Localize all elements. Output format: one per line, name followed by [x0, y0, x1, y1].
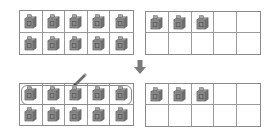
ten-frame-cell [169, 33, 192, 54]
ten-frame-cell [214, 33, 237, 54]
ten-frame-cell [20, 11, 43, 33]
ten-frame-cell [43, 84, 66, 105]
ten-frame-cell [214, 105, 237, 126]
ten-frame-cell [214, 12, 237, 33]
cube-icon [114, 86, 129, 101]
cube-icon [46, 107, 61, 122]
ten-frame-cell [43, 11, 66, 33]
ten-frame-cell [146, 84, 169, 105]
cube-icon [23, 107, 38, 122]
cube-icon [46, 86, 61, 101]
ten-frame-cell [20, 84, 43, 105]
ten-frame-before-left [19, 10, 134, 55]
cube-icon [23, 36, 38, 51]
ten-frame-cell [65, 11, 88, 33]
ten-frame-cell [237, 33, 260, 54]
cube-icon [23, 86, 38, 101]
cube-icon [23, 14, 38, 29]
cube-icon [91, 14, 106, 29]
ten-frame-cell [237, 12, 260, 33]
cube-icon [68, 36, 83, 51]
ten-frame-cell [88, 11, 111, 33]
cube-icon [68, 107, 83, 122]
cube-icon [46, 14, 61, 29]
ten-frame-cell [110, 33, 133, 55]
cube-icon [68, 14, 83, 29]
ten-frame-cell [192, 105, 215, 126]
ten-frame-cell [20, 105, 43, 126]
cube-icon [46, 36, 61, 51]
ten-frame-cell [110, 105, 133, 126]
cube-icon [114, 14, 129, 29]
cube-icon [114, 107, 129, 122]
cube-icon [91, 36, 106, 51]
cube-icon [195, 15, 210, 30]
ten-frame-cell [237, 105, 260, 126]
ten-frame-before-right [145, 11, 261, 55]
pencil-icon [72, 72, 87, 85]
ten-frame-cell [88, 33, 111, 55]
ten-frame-cell [169, 84, 192, 105]
ten-frame-cell [43, 33, 66, 55]
cube-icon [91, 107, 106, 122]
ten-frame-after-left [19, 83, 134, 126]
ten-frame-cell [192, 84, 215, 105]
cube-icon [149, 15, 164, 30]
ten-frame-cell [88, 84, 111, 105]
ten-frame-cell [65, 84, 88, 105]
ten-frame-cell [110, 84, 133, 105]
cube-icon [195, 87, 210, 102]
ten-frame-cell [192, 12, 215, 33]
cube-icon [172, 87, 187, 102]
ten-frame-cell [88, 105, 111, 126]
ten-frame-cell [169, 105, 192, 126]
arrow-down-icon [134, 60, 146, 74]
ten-frame-cell [65, 105, 88, 126]
ten-frame-cell [169, 12, 192, 33]
cube-icon [68, 86, 83, 101]
ten-frame-cell [192, 33, 215, 54]
cube-icon [172, 15, 187, 30]
cube-icon [91, 86, 106, 101]
ten-frame-cell [146, 33, 169, 54]
ten-frame-cell [214, 84, 237, 105]
ten-frame-cell [146, 12, 169, 33]
ten-frame-after-right [145, 83, 261, 127]
ten-frame-cell [110, 11, 133, 33]
ten-frame-cell [146, 105, 169, 126]
ten-frame-cell [65, 33, 88, 55]
cube-icon [114, 36, 129, 51]
ten-frame-cell [43, 105, 66, 126]
cube-icon [149, 87, 164, 102]
ten-frame-cell [20, 33, 43, 55]
ten-frame-cell [237, 84, 260, 105]
